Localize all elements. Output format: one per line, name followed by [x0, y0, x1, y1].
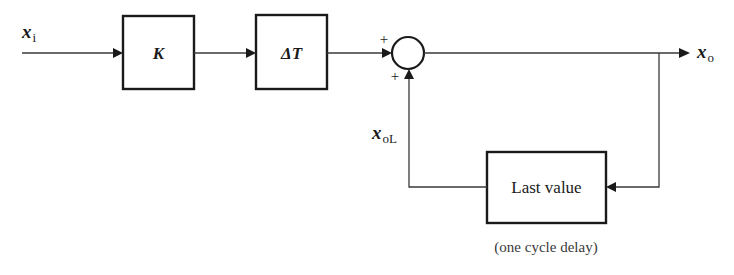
- last-value-block: Last value: [487, 152, 606, 223]
- last-value-block-label: Last value: [511, 178, 581, 197]
- delta-t-block: ΔT: [256, 15, 327, 89]
- last-value-caption: (one cycle delay): [494, 239, 597, 256]
- arrowhead-output: [679, 48, 690, 58]
- feedback-wire: [409, 77, 487, 187]
- gain-block-label: K: [152, 44, 166, 63]
- arrowhead-into-sum-bottom: [404, 69, 414, 79]
- svg-text:xoL: xoL: [371, 122, 397, 146]
- arrowhead-into-deltat: [246, 48, 256, 58]
- sum-sign-top: +: [380, 31, 388, 47]
- summing-junction: [392, 37, 424, 69]
- sum-sign-bottom: +: [391, 68, 399, 84]
- output-signal-label: xo: [696, 41, 714, 65]
- block-diagram: xi K ΔT + xo Last value (one cycle delay…: [0, 0, 734, 275]
- svg-text:xo: xo: [696, 41, 714, 65]
- arrowhead-into-last-value: [606, 182, 616, 192]
- gain-block: K: [123, 16, 194, 89]
- feedback-signal-label: xoL: [371, 122, 397, 146]
- arrowhead-into-sum-left: [382, 48, 392, 58]
- delta-t-block-label: ΔT: [280, 44, 303, 63]
- input-signal-label: xi: [21, 21, 37, 45]
- svg-text:xi: xi: [21, 21, 37, 45]
- output-feedback-tap-wire: [614, 53, 659, 187]
- arrowhead-into-gain: [113, 48, 123, 58]
